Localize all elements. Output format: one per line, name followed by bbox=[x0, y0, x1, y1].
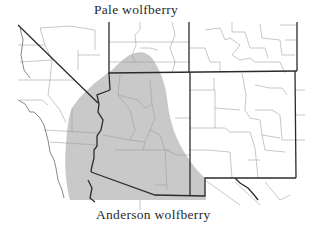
california-nevada-border bbox=[18, 25, 98, 103]
texas-mexico-border bbox=[235, 178, 258, 200]
new-mexico-texas-border bbox=[295, 71, 296, 178]
california-coastline bbox=[18, 100, 64, 198]
anderson-wolfberry-label: Anderson wolfberry bbox=[96, 207, 211, 223]
range-map bbox=[0, 0, 315, 230]
wolfberry-range-shading bbox=[65, 52, 206, 200]
nevada-utah-border bbox=[109, 22, 110, 90]
